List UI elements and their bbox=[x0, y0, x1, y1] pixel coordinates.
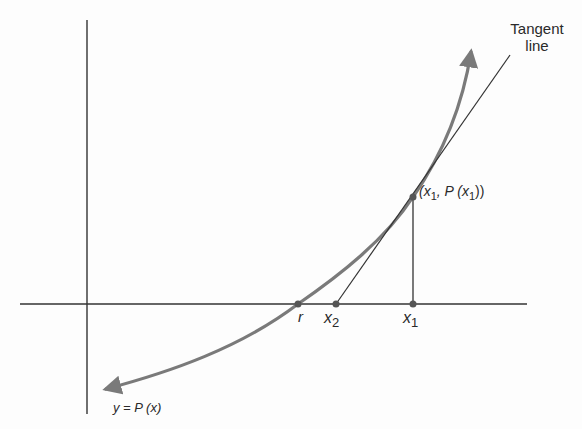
x1-label-base: x bbox=[403, 309, 411, 326]
tangent-point bbox=[410, 194, 417, 201]
x1-label: x1 bbox=[403, 310, 418, 329]
root-label: r bbox=[298, 309, 303, 324]
tangent-point-label: (x1, P (x1)) bbox=[419, 184, 484, 202]
x1-label-sub: 1 bbox=[411, 315, 418, 330]
tangent-line-label: Tangent line bbox=[502, 20, 572, 54]
tangent-label-line2: line bbox=[502, 37, 572, 54]
tangent-line bbox=[336, 55, 510, 304]
x2-point bbox=[333, 301, 340, 308]
x1-point bbox=[410, 301, 417, 308]
point-label-mid: , P (x bbox=[437, 183, 469, 199]
x2-label: x2 bbox=[324, 310, 339, 329]
x2-label-base: x bbox=[324, 309, 332, 326]
x2-label-sub: 2 bbox=[332, 315, 339, 330]
tangent-label-line1: Tangent bbox=[502, 20, 572, 37]
point-label-close: )) bbox=[475, 183, 484, 199]
curve-label: y = P (x) bbox=[113, 401, 161, 414]
root-point bbox=[295, 301, 302, 308]
newton-method-diagram: Tangent line (x1, P (x1)) r x2 x1 y = P … bbox=[0, 0, 582, 429]
polynomial-curve bbox=[106, 52, 471, 389]
diagram-graphics bbox=[0, 0, 582, 429]
point-label-open: (x bbox=[419, 183, 431, 199]
